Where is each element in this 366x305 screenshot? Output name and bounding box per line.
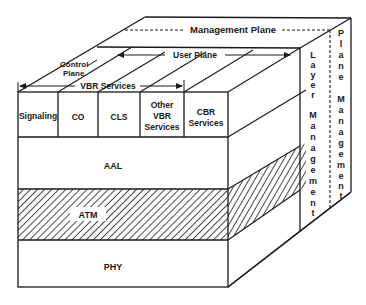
layer-atm-label: ATM	[79, 210, 98, 220]
service-other-vbr-line3: Services	[145, 122, 180, 132]
vbr-services-label: VBR Services	[80, 81, 136, 91]
service-other-vbr-line1: Other	[151, 100, 174, 110]
diagram-canvas: Management Plane User Plane Control Plan…	[0, 0, 366, 305]
svg-text:e: e	[338, 72, 343, 82]
svg-text:g: g	[338, 138, 344, 148]
side-face	[228, 90, 351, 287]
atm-side-hatch	[228, 143, 306, 240]
svg-text:a: a	[310, 60, 316, 70]
svg-text:e: e	[310, 80, 315, 90]
control-plane-label-line1: Control	[60, 60, 88, 69]
service-co: CO	[72, 112, 85, 122]
svg-text:l: l	[340, 39, 343, 49]
service-cbr-line2: Services	[189, 118, 224, 128]
svg-text:L: L	[310, 50, 316, 60]
svg-text:g: g	[310, 154, 316, 164]
svg-text:n: n	[338, 61, 344, 71]
svg-text:e: e	[310, 165, 315, 175]
svg-text:y: y	[310, 70, 315, 80]
service-cbr-line1: CBR	[197, 107, 215, 117]
svg-text:n: n	[338, 181, 344, 191]
svg-text:r: r	[311, 90, 315, 100]
svg-text:a: a	[338, 50, 344, 60]
service-cls: CLS	[111, 112, 128, 122]
svg-text:a: a	[310, 143, 316, 153]
svg-text:P: P	[338, 28, 344, 38]
svg-text:e: e	[338, 171, 343, 181]
service-signaling: Signaling	[19, 111, 57, 121]
control-plane-label-line2: Plane	[63, 69, 85, 78]
svg-text:n: n	[310, 198, 316, 208]
protocol-reference-model-diagram: Management Plane User Plane Control Plan…	[0, 0, 366, 305]
layer-phy-label: PHY	[104, 262, 123, 272]
svg-text:M: M	[309, 110, 317, 120]
management-plane-label: Management Plane	[190, 24, 276, 35]
atm-layer-hatch	[18, 189, 228, 240]
svg-text:a: a	[310, 121, 316, 131]
control-plane-leader	[87, 60, 97, 66]
svg-text:t: t	[312, 208, 315, 218]
layer-aal-label: AAL	[104, 161, 123, 171]
svg-text:m: m	[337, 160, 345, 170]
plane-management-label: P l a n e M a n a g e m e n t	[337, 28, 345, 201]
svg-text:a: a	[338, 127, 344, 137]
svg-text:t: t	[340, 191, 343, 201]
svg-text:m: m	[309, 176, 317, 186]
service-other-vbr-line2: VBR	[153, 111, 171, 121]
service-cells: Signaling CO CLS Other VBR Services CBR …	[19, 100, 224, 132]
svg-text:M: M	[337, 94, 345, 104]
svg-text:n: n	[310, 132, 316, 142]
svg-text:e: e	[338, 149, 343, 159]
user-plane-label: User Plane	[173, 50, 217, 60]
svg-text:a: a	[338, 105, 344, 115]
layer-management-label: L a y e r M a n a g e m e n t	[309, 50, 317, 218]
svg-text:e: e	[310, 187, 315, 197]
svg-text:n: n	[338, 116, 344, 126]
